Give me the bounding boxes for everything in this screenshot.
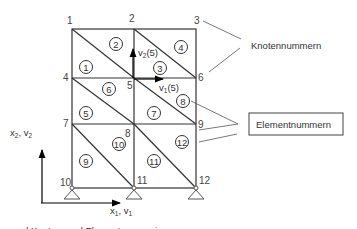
element-label: 12 [177, 137, 188, 148]
support-icon [126, 190, 142, 199]
element-label: 1 [83, 62, 88, 73]
element-label: 6 [106, 84, 111, 95]
node-label: 12 [199, 175, 211, 186]
fe-mesh-diagram: 1 2 3 4 5 6 7 8 9 10 11 12 1 2 3 4 5 6 7… [0, 0, 357, 229]
element-label: 5 [83, 108, 88, 119]
element-label: 11 [149, 156, 159, 167]
node-label: 5 [127, 80, 133, 91]
node-label: 8 [125, 128, 131, 139]
nodes-callout-label: Knotennummern [251, 40, 321, 51]
element-label: 2 [113, 39, 118, 50]
node-label: 10 [60, 177, 72, 188]
node-label: 3 [194, 15, 200, 26]
element-label: 7 [151, 108, 156, 119]
element-label: 4 [178, 42, 183, 53]
element-label: 3 [157, 63, 162, 74]
node-label: 7 [63, 118, 69, 129]
node-label: 1 [67, 15, 73, 26]
y-axis-label: x2, v2 [10, 127, 32, 139]
dof-v2-label: v2(5) [138, 47, 158, 59]
dof-v1-label: v1(5) [159, 82, 179, 94]
element-label: 9 [83, 156, 88, 167]
x-axis-label: x1, v1 [110, 205, 132, 217]
support-icon [64, 190, 80, 199]
element-labels: 1 2 3 4 5 6 7 8 9 10 11 12 [83, 39, 187, 167]
node-label: 9 [198, 119, 204, 130]
support-icon [188, 190, 204, 199]
element-label: 8 [180, 96, 185, 107]
node-label: 4 [63, 72, 69, 83]
node-label: 2 [129, 13, 135, 24]
element-label: 10 [114, 139, 125, 150]
elements-callout-label: Elementnummern [256, 119, 331, 130]
caption: ... und Knoten- und Elementnummerierung [2, 225, 182, 229]
node-label: 11 [137, 175, 148, 186]
node-label: 6 [198, 72, 204, 83]
